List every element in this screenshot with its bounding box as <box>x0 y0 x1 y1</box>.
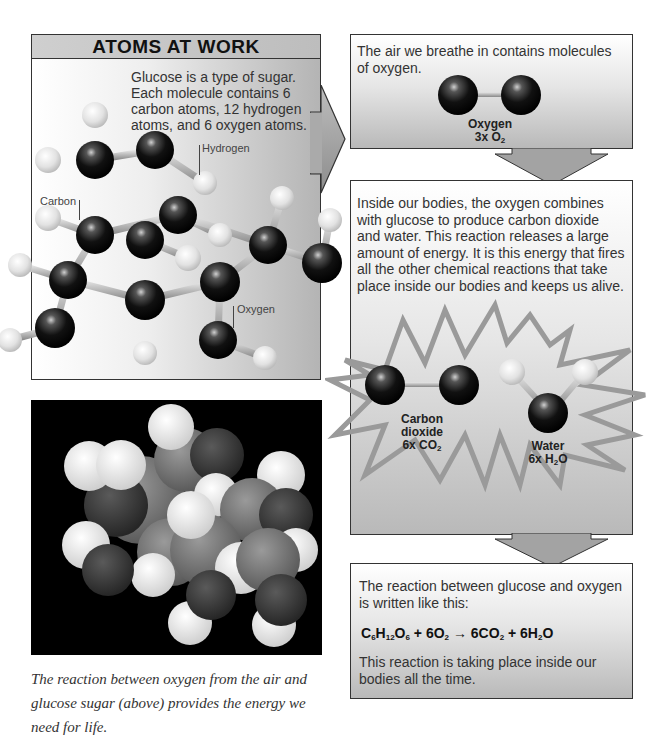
eq-part: O <box>542 625 553 641</box>
equation-box: The reaction between glucose and oxygen … <box>350 563 633 699</box>
chemical-equation: C6H12O6 + 6O2 → 6CO2 + 6H2O <box>361 625 624 642</box>
eq-sub: 12 <box>386 633 395 642</box>
oxygen-molecule-label: Oxygen 3x O2 <box>460 118 520 147</box>
equation-intro-text: The reaction between glucose and oxygen … <box>359 578 624 611</box>
oxygen-count: 3x O2 <box>460 131 520 147</box>
co2-count-text: 6x CO <box>402 438 437 452</box>
carbon-dioxide-count: 6x CO2 <box>382 439 462 455</box>
carbon-leader-line <box>79 200 80 220</box>
reaction-text: Inside our bodies, the oxygen combines w… <box>357 195 626 294</box>
glucose-space-filling-model <box>31 400 322 655</box>
eq-part: C <box>361 625 371 641</box>
photo-caption: The reaction between oxygen from the air… <box>31 667 331 739</box>
co2-subscript: 2 <box>437 444 441 453</box>
oxygen-leader-line <box>233 306 234 328</box>
carbon-dioxide-molecule-diagram <box>362 362 482 408</box>
eq-part: + 6O <box>410 625 445 641</box>
carbon-dioxide-name: Carbon dioxide <box>382 413 462 439</box>
water-count-post: O <box>558 452 567 466</box>
hydrogen-label: Hydrogen <box>202 142 250 154</box>
eq-part: + 6H <box>504 625 538 641</box>
water-count: 6x H2O <box>518 453 578 469</box>
eq-part: H <box>376 625 386 641</box>
water-count-pre: 6x H <box>528 452 553 466</box>
eq-part: → 6CO <box>449 625 500 641</box>
glucose-molecule-diagram <box>0 100 345 380</box>
equation-outro-text: This reaction is taking place inside our… <box>359 654 624 687</box>
carbon-dioxide-label: Carbon dioxide 6x CO2 <box>382 413 462 455</box>
eq-part: O <box>395 625 406 641</box>
water-molecule-diagram <box>495 355 605 435</box>
carbon-label: Carbon <box>40 195 76 207</box>
panel-title: ATOMS AT WORK <box>32 35 320 59</box>
oxygen-count-text: 3x O <box>475 130 501 144</box>
hydrogen-leader-line <box>199 145 200 175</box>
oxygen-subscript: 2 <box>501 136 505 145</box>
oxygen-label: Oxygen <box>237 303 275 315</box>
water-label: Water 6x H2O <box>518 440 578 469</box>
oxygen-molecule-diagram <box>420 72 560 118</box>
